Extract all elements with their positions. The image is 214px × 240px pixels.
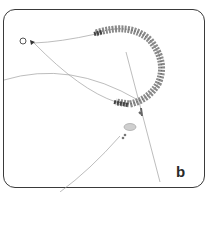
beaded-arc <box>94 29 162 105</box>
clasp <box>20 38 35 45</box>
threads <box>4 34 160 192</box>
charm <box>122 108 142 139</box>
figure-label: b <box>176 163 185 180</box>
